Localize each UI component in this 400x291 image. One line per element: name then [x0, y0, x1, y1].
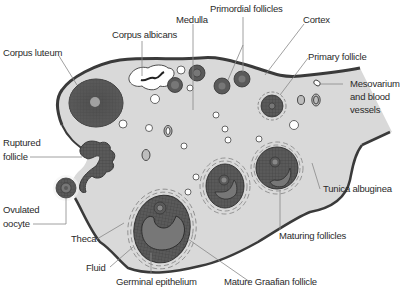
label-corpus-albicans: Corpus albicans [112, 29, 177, 41]
label-theca: Theca [71, 233, 96, 245]
label-mesovarium-2: and blood [350, 91, 390, 103]
label-germinal-epithelium: Germinal epithelium [116, 276, 197, 288]
ovulated-oocyte [53, 175, 79, 201]
label-corpus-luteum: Corpus luteum [3, 47, 62, 59]
label-maturing-follicles: Maturing follicles [279, 230, 346, 242]
label-primordial-follicles: Primordial follicles [210, 3, 283, 15]
label-primary-follicle: Primary follicle [308, 51, 367, 63]
label-cortex: Cortex [303, 14, 330, 26]
label-ovulated-1: Ovulated [3, 204, 39, 216]
label-medulla: Medulla [176, 14, 208, 26]
label-fluid: Fluid [86, 262, 106, 274]
label-ruptured-2: follicle [3, 151, 28, 163]
label-ovulated-2: oocyte [3, 218, 30, 230]
label-mesovarium-3: vessels [350, 104, 380, 116]
label-mature-graafian-follicle: Mature Graafian follicle [224, 276, 317, 288]
label-ruptured-1: Ruptured [3, 137, 40, 149]
label-mesovarium-1: Mesovarium [350, 78, 400, 90]
label-tunica-albuginea: Tunica albuginea [323, 183, 392, 195]
